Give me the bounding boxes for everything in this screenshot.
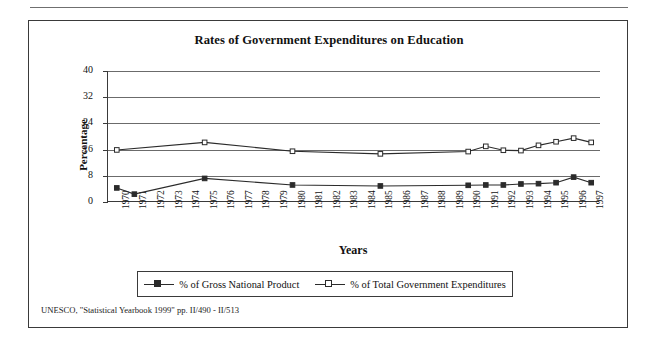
data-point-marker	[114, 148, 119, 153]
data-point-marker	[466, 183, 471, 188]
data-point-marker	[571, 175, 576, 180]
legend-label-total-gov-exp: % of Total Government Expenditures	[350, 279, 505, 290]
top-divider-rule	[30, 7, 628, 8]
y-tick-label: 8	[53, 169, 93, 180]
data-point-marker	[571, 136, 576, 141]
data-point-marker	[536, 181, 541, 186]
x-axis-title: Years	[107, 243, 599, 258]
data-point-marker	[483, 144, 488, 149]
data-point-marker	[290, 183, 295, 188]
series-layer	[108, 71, 600, 202]
y-tick-mark	[103, 202, 108, 203]
data-point-marker	[589, 140, 594, 145]
data-point-marker	[114, 186, 119, 191]
figure-frame: Rates of Government Expenditures on Educ…	[28, 20, 628, 328]
data-point-marker	[202, 176, 207, 181]
data-point-marker	[202, 140, 207, 145]
figure-root: Rates of Government Expenditures on Educ…	[0, 0, 656, 355]
data-point-marker	[554, 139, 559, 144]
legend-marker-open-square-icon	[315, 279, 345, 289]
source-note: UNESCO, "Statistical Yearbook 1999" pp. …	[41, 305, 239, 315]
data-point-marker	[378, 184, 383, 189]
data-point-marker	[519, 148, 524, 153]
legend-label-gnp: % of Gross National Product	[179, 279, 299, 290]
data-point-marker	[378, 152, 383, 157]
data-point-marker	[466, 149, 471, 154]
y-tick-label: 16	[53, 143, 93, 154]
y-tick-label: 0	[53, 195, 93, 206]
data-point-marker	[132, 192, 137, 197]
chart-legend: % of Gross National Product % of Total G…	[137, 271, 513, 297]
legend-item-total-gov-exp[interactable]: % of Total Government Expenditures	[315, 279, 505, 290]
y-tick-label: 32	[53, 90, 93, 101]
y-tick-label: 24	[53, 116, 93, 127]
data-point-marker	[536, 143, 541, 148]
legend-item-gnp[interactable]: % of Gross National Product	[144, 279, 299, 290]
data-point-marker	[483, 183, 488, 188]
data-point-marker	[290, 149, 295, 154]
data-point-marker	[501, 148, 506, 153]
data-point-marker	[589, 180, 594, 185]
data-point-marker	[519, 182, 524, 187]
plot-area: 0816243240197019711972197319741975197619…	[107, 71, 599, 202]
y-tick-label: 40	[53, 64, 93, 75]
legend-marker-filled-square-icon	[144, 279, 174, 289]
data-point-marker	[501, 183, 506, 188]
data-point-marker	[554, 180, 559, 185]
